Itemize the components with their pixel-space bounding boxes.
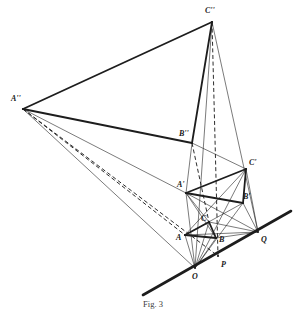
ray-A2-O <box>23 109 195 268</box>
point-label-A: A <box>175 233 182 242</box>
figure-caption: Fig. 3 <box>0 299 306 309</box>
projector-B2-C <box>192 143 209 222</box>
edge-A2-B2 <box>23 109 192 143</box>
vertex-dot-Cp <box>245 168 247 170</box>
vertex-dot-O <box>194 267 196 269</box>
thin-line-group <box>23 22 258 268</box>
vertex-dot-A <box>184 234 186 236</box>
vertex-dot-B <box>215 237 217 239</box>
point-label-Ap: A' <box>176 180 185 189</box>
point-label-Cp: C' <box>249 158 257 167</box>
point-label-P: P <box>221 260 226 269</box>
ray-B2-C1 <box>192 143 246 169</box>
vertex-dot-App <box>22 108 24 110</box>
vertex-dot-group <box>22 21 259 269</box>
point-label-C: C <box>201 214 207 223</box>
point-label-B: B <box>218 235 225 244</box>
point-label-Q: Q <box>261 235 267 244</box>
vertex-dot-Q <box>257 231 259 233</box>
edge-B2-C2 <box>192 22 212 143</box>
point-label-App: A'' <box>10 94 22 103</box>
ray-B2-A1 <box>186 143 192 193</box>
projector-C2-P <box>212 22 218 256</box>
vertex-dot-Cpp <box>211 21 213 23</box>
dashed-line-group <box>23 22 218 256</box>
ray-C2-O <box>195 22 212 268</box>
edge-B-C <box>209 222 216 238</box>
geometric-construction-figure: A''B''C''A'B'C'ABCOPQ <box>0 0 306 315</box>
vertex-dot-P <box>217 255 219 257</box>
point-label-group: A''B''C''A'B'C'ABCOPQ <box>10 6 267 281</box>
point-label-Cpp: C'' <box>205 6 216 15</box>
point-label-Bpp: B'' <box>178 129 190 138</box>
projector-A2-A <box>23 109 185 235</box>
vertex-dot-Bpp <box>191 142 193 144</box>
vertex-dot-C <box>208 221 210 223</box>
vertex-dot-Bp <box>242 202 244 204</box>
point-label-Bp: B' <box>242 192 251 201</box>
point-label-O: O <box>192 272 198 281</box>
ray-A2-A1 <box>23 109 186 193</box>
ray-C2-Q <box>212 22 258 232</box>
edge-A1-B1 <box>186 193 243 203</box>
edge-A2-C2 <box>23 22 212 109</box>
vertex-dot-Ap <box>185 192 187 194</box>
